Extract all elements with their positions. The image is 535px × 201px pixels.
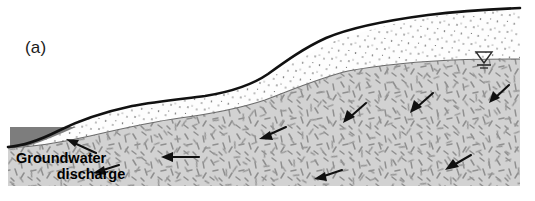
panel-label: (a) bbox=[25, 38, 46, 58]
discharge-label-line-1: Groundwater bbox=[16, 150, 166, 166]
groundwater-discharge-figure: (a) Groundwater discharge bbox=[0, 0, 535, 201]
groundwater-discharge-label: Groundwater discharge bbox=[16, 150, 166, 182]
discharge-label-line-2: discharge bbox=[16, 166, 166, 182]
